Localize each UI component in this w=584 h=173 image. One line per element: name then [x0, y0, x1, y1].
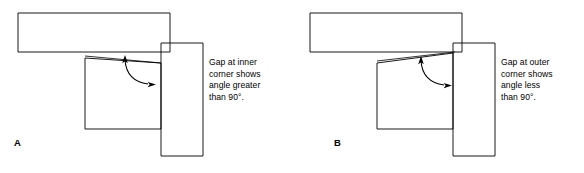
vertical-block-outline — [453, 43, 495, 156]
arrow-head-right — [148, 82, 156, 87]
panel-a-caption: Gap at inner corner shows angle greater … — [209, 57, 289, 103]
callout-arrow-curve — [421, 61, 444, 85]
vertical-block-outline — [161, 43, 203, 156]
panel-b-caption: Gap at outer corner shows angle less tha… — [501, 57, 581, 103]
horizontal-bar-outline — [18, 13, 170, 52]
gap-callout-arrow — [418, 56, 452, 88]
arrow-head-right — [444, 83, 452, 88]
callout-arrow-curve — [125, 60, 148, 84]
diagram-panel-b: Gap at outer corner shows angle less tha… — [292, 0, 584, 173]
panel-a-letter: A — [14, 137, 21, 148]
lower-workpiece-outline — [377, 53, 453, 129]
gap-wedge-line — [377, 52, 455, 61]
horizontal-bar-outline — [310, 13, 462, 52]
panel-b-letter: B — [334, 137, 341, 148]
lower-workpiece-outline — [85, 58, 161, 129]
figure-root: Gap at inner corner shows angle greater … — [0, 0, 584, 173]
diagram-panel-a: Gap at inner corner shows angle greater … — [0, 0, 292, 173]
